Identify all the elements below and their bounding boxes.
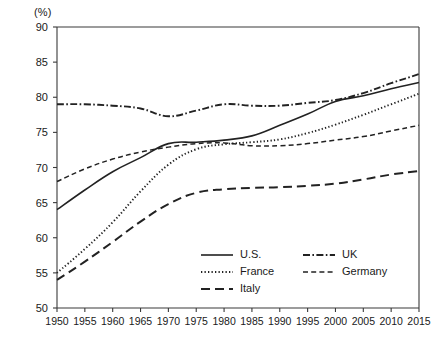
x-tick-label: 1985	[240, 315, 264, 327]
series-line-italy	[57, 171, 419, 280]
x-tick-label: 2010	[379, 315, 403, 327]
y-tick-label: 55	[36, 267, 48, 279]
y-tick-group: 505560657075808590	[36, 21, 57, 314]
y-tick-label: 85	[36, 56, 48, 68]
x-tick-label: 2000	[324, 315, 348, 327]
y-tick-label: 65	[36, 197, 48, 209]
legend-label-italy: Italy	[240, 282, 261, 294]
x-tick-label: 1990	[268, 315, 292, 327]
y-tick-label: 90	[36, 21, 48, 33]
y-tick-label: 75	[36, 126, 48, 138]
series-line-france	[57, 94, 419, 273]
y-tick-label: 70	[36, 162, 48, 174]
x-tick-label: 1965	[129, 315, 153, 327]
legend-label-france: France	[240, 265, 274, 277]
chart-legend: U.S.UKFranceGermanyItaly	[201, 248, 388, 294]
x-tick-group: 1950195519601965197019751980198519901995…	[45, 308, 431, 327]
y-tick-label: 80	[36, 91, 48, 103]
x-tick-label: 1960	[101, 315, 125, 327]
x-tick-label: 1950	[45, 315, 69, 327]
x-tick-label: 1955	[73, 315, 97, 327]
y-axis-group: 505560657075808590	[36, 21, 57, 314]
line-chart: 505560657075808590 195019551960196519701…	[0, 0, 440, 345]
y-tick-label: 60	[36, 232, 48, 244]
x-tick-label: 1995	[296, 315, 320, 327]
chart-container: (%) 505560657075808590 19501955196019651…	[0, 0, 440, 345]
legend-label-uk: UK	[342, 248, 358, 260]
series-line-us	[57, 83, 419, 210]
legend-label-us: U.S.	[240, 248, 261, 260]
x-tick-label: 2005	[352, 315, 376, 327]
x-tick-label: 1975	[185, 315, 209, 327]
x-tick-label: 1970	[157, 315, 181, 327]
series-group	[57, 74, 419, 280]
legend-label-germany: Germany	[342, 265, 388, 277]
y-tick-label: 50	[36, 302, 48, 314]
x-tick-label: 1980	[212, 315, 236, 327]
x-tick-label: 2015	[407, 315, 431, 327]
